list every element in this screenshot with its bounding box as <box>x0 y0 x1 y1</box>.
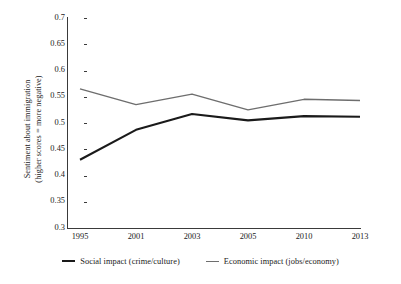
legend-swatch-icon <box>62 260 75 262</box>
legend-label: Social impact (crime/culture) <box>80 257 180 266</box>
x-tick-label: 2001 <box>110 232 162 241</box>
legend-item[interactable]: Social impact (crime/culture) <box>62 257 180 266</box>
legend-swatch-icon <box>206 261 219 262</box>
x-tick-label: 2005 <box>222 232 274 241</box>
chart-legend: Social impact (crime/culture)Economic im… <box>0 252 401 270</box>
legend-item[interactable]: Economic impact (jobs/economy) <box>206 257 339 266</box>
chart-figure: Sentiment about immigration (higher scor… <box>0 0 401 284</box>
x-axis-ticks: 199520012003200520102013 <box>0 0 401 284</box>
x-tick-label: 2010 <box>278 232 330 241</box>
legend-label: Economic impact (jobs/economy) <box>224 257 339 266</box>
x-tick-label: 1995 <box>54 232 106 241</box>
x-tick-label: 2013 <box>334 232 386 241</box>
x-tick-label: 2003 <box>166 232 218 241</box>
